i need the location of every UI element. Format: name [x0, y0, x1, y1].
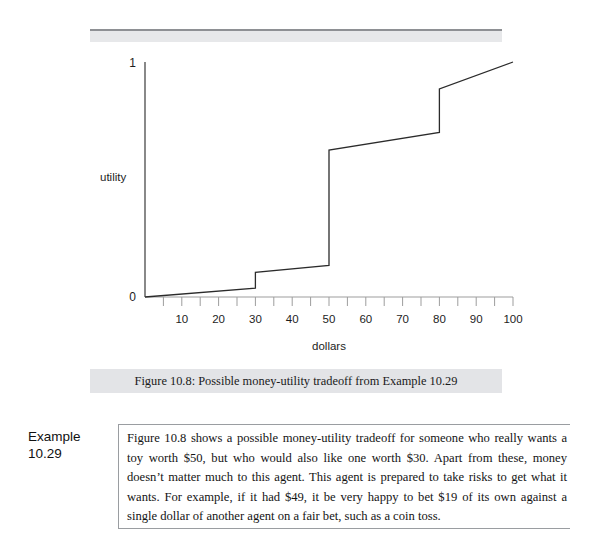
x-tick-label-10: 10 [175, 313, 188, 325]
y-axis-title: utility [100, 171, 126, 183]
example-box: Figure 10.8 shows a possible money-utili… [118, 424, 570, 529]
page-root: 10 20 30 40 50 60 70 80 90 100 1 0 utili… [0, 0, 596, 551]
utility-chart-svg: 10 20 30 40 50 60 70 80 90 100 1 0 utili… [0, 44, 596, 364]
example-tag-line2: 10.29 [28, 445, 118, 462]
x-axis-ticks [163, 297, 513, 306]
x-tick-label-20: 20 [212, 313, 225, 325]
x-tick-label-100: 100 [503, 313, 522, 325]
x-tick-label-60: 60 [359, 313, 372, 325]
figure-chart: 10 20 30 40 50 60 70 80 90 100 1 0 utili… [0, 44, 596, 364]
x-tick-label-90: 90 [470, 313, 483, 325]
figure-caption: Figure 10.8: Possible money-utility trad… [90, 371, 502, 391]
example-body-text: Figure 10.8 shows a possible money-utili… [127, 429, 567, 527]
y-tick-label-1: 1 [129, 56, 136, 70]
x-axis-title: dollars [312, 340, 346, 352]
x-tick-label-50: 50 [323, 313, 336, 325]
y-tick-label-0: 0 [129, 290, 136, 304]
example-tag-line1: Example [28, 428, 118, 445]
example-rule-left [118, 424, 119, 529]
utility-step-curve [145, 62, 513, 297]
x-tick-label-70: 70 [396, 313, 409, 325]
top-divider-band [90, 31, 502, 42]
example-paragraph: Figure 10.8 shows a possible money-utili… [127, 429, 567, 527]
example-tag: Example 10.29 [28, 428, 118, 462]
x-tick-label-30: 30 [249, 313, 262, 325]
x-tick-label-80: 80 [433, 313, 446, 325]
example-rule-top [118, 424, 570, 425]
x-tick-label-40: 40 [286, 313, 299, 325]
example-rule-bottom [118, 528, 570, 529]
